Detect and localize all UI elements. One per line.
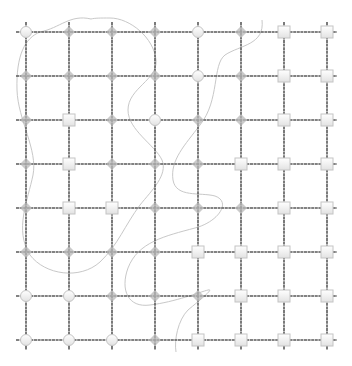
square-node (321, 334, 333, 346)
circle-node (21, 335, 32, 346)
square-node (235, 158, 247, 170)
square-node (278, 158, 290, 170)
circle-node (64, 291, 75, 302)
diamond-node (192, 158, 204, 170)
diamond-node (149, 290, 161, 302)
diamond-node (20, 246, 32, 258)
diamond-node (192, 114, 204, 126)
diamond-node (235, 114, 247, 126)
diamond-node (149, 70, 161, 82)
diamond-node (106, 26, 118, 38)
node-layer (20, 26, 333, 346)
circle-node (21, 27, 32, 38)
boundary-curve-1 (17, 18, 163, 273)
square-node (63, 158, 75, 170)
square-node (278, 70, 290, 82)
square-node (63, 114, 75, 126)
diamond-node (149, 334, 161, 346)
diamond-node (149, 158, 161, 170)
square-node (321, 290, 333, 302)
diamond-node (20, 158, 32, 170)
square-node (321, 114, 333, 126)
square-node (192, 334, 204, 346)
square-node (278, 114, 290, 126)
square-node (278, 26, 290, 38)
square-node (235, 334, 247, 346)
diamond-node (20, 202, 32, 214)
square-node (278, 290, 290, 302)
diamond-node (192, 202, 204, 214)
circle-node (21, 291, 32, 302)
circle-node (150, 115, 161, 126)
grid-diagram (0, 0, 352, 366)
diamond-node (149, 246, 161, 258)
square-node (235, 290, 247, 302)
diamond-node (149, 26, 161, 38)
square-node (321, 158, 333, 170)
circle-node (193, 71, 204, 82)
grid-diagram-canvas (0, 0, 352, 366)
circle-node (193, 27, 204, 38)
circle-node (64, 335, 75, 346)
circle-node (107, 335, 118, 346)
diamond-node (235, 70, 247, 82)
diamond-node (235, 202, 247, 214)
diamond-node (106, 114, 118, 126)
square-node (63, 202, 75, 214)
diamond-node (63, 70, 75, 82)
square-node (321, 246, 333, 258)
square-node (235, 246, 247, 258)
diamond-node (106, 158, 118, 170)
square-node (278, 202, 290, 214)
diamond-node (106, 70, 118, 82)
square-node (106, 202, 118, 214)
square-node (321, 26, 333, 38)
diamond-node (63, 246, 75, 258)
diamond-node (63, 26, 75, 38)
curve-layer (17, 18, 262, 352)
diamond-node (235, 26, 247, 38)
square-node (278, 334, 290, 346)
square-node (321, 202, 333, 214)
diamond-node (106, 290, 118, 302)
diamond-node (20, 70, 32, 82)
square-node (278, 246, 290, 258)
diamond-node (149, 202, 161, 214)
square-node (192, 246, 204, 258)
diamond-node (106, 246, 118, 258)
square-node (321, 70, 333, 82)
